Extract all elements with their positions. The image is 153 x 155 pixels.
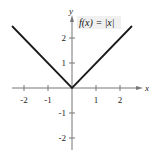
- x-tick-label: 2: [118, 95, 123, 105]
- absolute-value-chart: -2 -1 1 2 2 1 -1 -2 x y f(x) = |x|: [0, 0, 153, 155]
- y-axis-arrow-icon: [70, 15, 74, 22]
- x-tick-label: -2: [20, 95, 28, 105]
- function-label: f(x) = |x|: [79, 17, 115, 29]
- x-tick-label: 1: [94, 95, 99, 105]
- x-axis-label: x: [144, 83, 149, 93]
- y-tick-label: 1: [62, 58, 67, 68]
- x-axis-arrow-icon: [136, 86, 143, 90]
- y-tick-label: 2: [62, 33, 67, 43]
- y-tick-label: -2: [59, 133, 67, 143]
- y-axis-label: y: [68, 6, 73, 16]
- x-tick-label: -1: [44, 95, 52, 105]
- y-tick-label: -1: [59, 108, 67, 118]
